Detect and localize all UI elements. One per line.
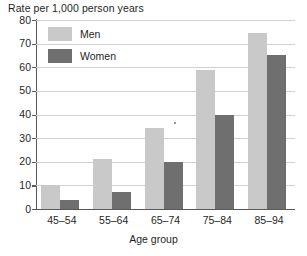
y-tick-label: 30 <box>19 133 31 144</box>
y-tick-label-wrap: 40 <box>0 109 31 120</box>
y-tick-label: 0 <box>25 204 31 215</box>
y-tick-label-wrap: 80 <box>0 15 31 26</box>
bar-men-45-54 <box>41 185 60 209</box>
legend-swatch-men <box>48 27 72 41</box>
legend-label-men: Men <box>80 28 100 40</box>
y-tick-mark <box>32 138 36 139</box>
bar-women-75-84 <box>215 115 234 210</box>
x-axis-line <box>33 209 295 210</box>
bar-men-75-84 <box>196 70 215 209</box>
y-tick-mark <box>32 115 36 116</box>
x-tick-label: 85–94 <box>239 214 299 226</box>
y-tick-mark <box>32 91 36 92</box>
legend-swatch-women <box>48 49 72 63</box>
y-tick-label: 50 <box>19 85 31 96</box>
y-tick-mark <box>32 209 36 210</box>
bar-women-55-64 <box>112 192 131 209</box>
legend-label-women: Women <box>80 50 116 62</box>
y-tick-label-wrap: 0 <box>0 204 31 215</box>
bar-men-85-94 <box>248 33 267 209</box>
gridline <box>36 20 295 21</box>
y-axis-title: Rate per 1,000 person years <box>8 2 144 14</box>
bar-women-45-54 <box>60 200 79 209</box>
y-tick-label-wrap: 60 <box>0 62 31 73</box>
y-tick-label: 20 <box>19 156 31 167</box>
bar-men-65-74 <box>145 128 164 210</box>
plot-area <box>36 20 295 209</box>
y-tick-label-wrap: 20 <box>0 156 31 167</box>
y-tick-label-wrap: 70 <box>0 38 31 49</box>
bar-women-85-94 <box>267 55 286 209</box>
y-tick-label-wrap: 10 <box>0 180 31 191</box>
y-tick-label: 40 <box>19 109 31 120</box>
y-tick-label-wrap: 30 <box>0 133 31 144</box>
x-axis-title: Age group <box>0 233 307 245</box>
y-tick-mark <box>32 44 36 45</box>
y-tick-label: 70 <box>19 38 31 49</box>
y-tick-label-wrap: 50 <box>0 85 31 96</box>
bar-men-55-64 <box>93 159 112 209</box>
y-tick-mark <box>32 162 36 163</box>
y-tick-mark <box>32 20 36 21</box>
y-tick-label: 10 <box>19 180 31 191</box>
bar-chart: Rate per 1,000 person years 010203040506… <box>0 0 307 256</box>
y-tick-label: 80 <box>19 15 31 26</box>
y-tick-mark <box>32 185 36 186</box>
y-tick-label: 60 <box>19 62 31 73</box>
scan-speck <box>174 122 176 124</box>
bar-women-65-74 <box>164 162 183 209</box>
y-tick-mark <box>32 67 36 68</box>
